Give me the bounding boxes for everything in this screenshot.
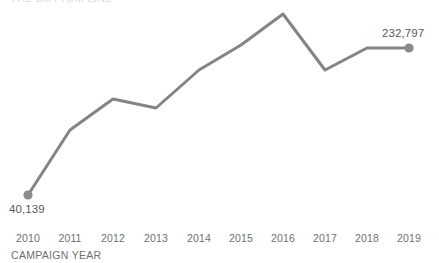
x-axis-title: CAMPAIGN YEAR [11, 249, 101, 261]
x-tick-2018: 2018 [346, 232, 388, 244]
x-tick-2014: 2014 [178, 232, 220, 244]
x-axis-tick-labels: 2010 2011 2012 2013 2014 2015 2016 2017 … [0, 232, 439, 246]
x-tick-2019: 2019 [388, 232, 430, 244]
data-point-marker-2019 [404, 43, 413, 52]
x-tick-2013: 2013 [135, 232, 177, 244]
data-label-first-point: 40,139 [9, 203, 45, 215]
x-tick-2017: 2017 [304, 232, 346, 244]
x-tick-2015: 2015 [220, 232, 262, 244]
data-point-marker-2010 [23, 190, 32, 199]
chart-plot-area [0, 0, 439, 263]
x-tick-2011: 2011 [49, 232, 91, 244]
x-tick-2012: 2012 [92, 232, 134, 244]
data-label-last-point: 232,797 [382, 27, 424, 39]
series-line-total [28, 14, 409, 195]
line-chart-figure: THE BOTTOM LINE 40,139 232,797 2010 2011… [0, 0, 439, 263]
x-tick-2010: 2010 [7, 232, 49, 244]
x-tick-2016: 2016 [262, 232, 304, 244]
